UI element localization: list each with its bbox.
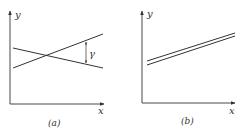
panel-a: y x γ (a) (10, 9, 104, 128)
caption-b: (b) (181, 116, 194, 126)
line-1 (147, 33, 235, 61)
caption-a: (a) (48, 118, 61, 128)
gamma-label: γ (89, 48, 95, 59)
y-axis-label: y (14, 9, 21, 20)
line-2 (147, 36, 235, 65)
panel-b: y x (b) (142, 8, 235, 126)
x-axis-label: x (229, 105, 235, 116)
x-axis-label: x (98, 105, 104, 116)
figure: y x γ (a) y x (b) (0, 0, 238, 132)
y-axis-label: y (146, 8, 153, 19)
